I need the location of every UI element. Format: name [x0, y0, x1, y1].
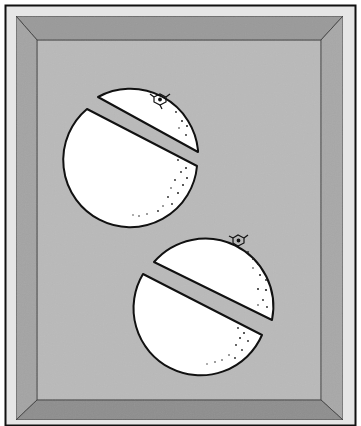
bevel-top: [16, 16, 343, 40]
framed-oranges-drawing: [0, 0, 361, 426]
bevel-bottom: [16, 400, 343, 420]
bevel-left: [16, 16, 37, 420]
bevel-right: [321, 16, 343, 420]
illustration: [0, 0, 361, 426]
